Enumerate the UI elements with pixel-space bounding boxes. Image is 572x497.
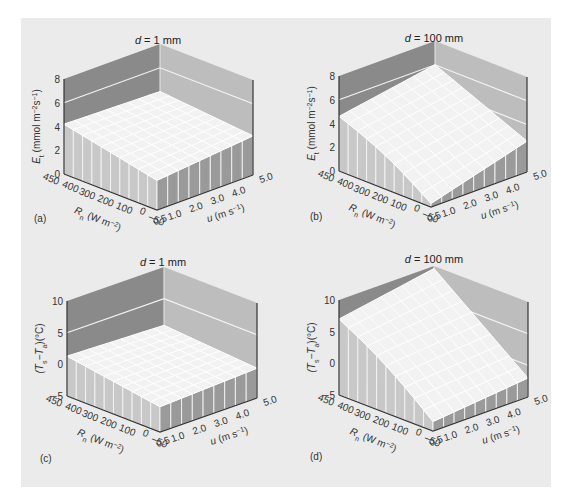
panel-b: 024684504003002001000−500.51.02.03.04.05… — [306, 32, 549, 232]
panel-title: d = 1 mm — [140, 256, 186, 268]
z-tick-label: 8 — [54, 74, 60, 85]
z-tick-label: 2 — [54, 145, 60, 156]
surface-skirt-left — [123, 386, 132, 421]
z-tick-label: 6 — [329, 95, 335, 106]
surface-skirt-left — [339, 116, 348, 174]
surface-skirt-left — [101, 147, 110, 192]
panel-label: (d) — [310, 451, 322, 462]
z-tick-label: 6 — [54, 98, 60, 109]
surface-skirt-left — [111, 152, 120, 195]
surface-skirt-left — [132, 392, 141, 425]
panel-label: (c) — [40, 453, 52, 464]
surface-skirt-right — [200, 156, 211, 195]
u-tick-label: 1.0 — [440, 204, 457, 219]
surface-skirt-left — [348, 328, 357, 402]
u-tick-label: 2.0 — [191, 422, 208, 437]
u-tick-label: 3.0 — [209, 192, 226, 207]
surface-skirt-left — [95, 371, 104, 410]
u-tick-label: 4.0 — [505, 406, 522, 421]
surface-skirt-right — [157, 175, 168, 210]
z-tick-label: 4 — [329, 119, 335, 130]
surface-skirt-left — [73, 130, 82, 182]
u-tick-label: 4.0 — [234, 407, 251, 422]
R-tick-label: 100 — [390, 421, 410, 438]
surface-skirt-right — [192, 390, 203, 421]
surface-skirt-right — [221, 146, 232, 187]
panel-label: (b) — [310, 211, 322, 222]
u-tick-label: 2.0 — [462, 196, 479, 211]
z-tick-label: 0 — [57, 359, 63, 370]
surface-skirt-left — [138, 169, 147, 206]
R-tick-label: 200 — [99, 415, 119, 432]
surface-skirt-right — [214, 381, 225, 413]
surface-skirt-right — [225, 377, 236, 410]
z-tick-label: 5 — [329, 327, 335, 338]
R-tick-label: 200 — [371, 190, 391, 207]
surface-skirt-right — [178, 166, 189, 203]
surface-skirt-right — [246, 368, 257, 402]
panel-title: d = 1 mm — [135, 34, 181, 46]
u-tick-label: 4.0 — [230, 184, 247, 199]
R-tick-label: 100 — [115, 200, 135, 217]
panel-title: d = 100 mm — [405, 253, 463, 265]
panel-d: −505104504003002001000−500.51.02.03.04.0… — [306, 253, 550, 462]
surface-skirt-right — [160, 402, 171, 432]
surface-skirt-left — [367, 346, 376, 409]
surface-skirt-right — [235, 373, 246, 406]
surface-skirt-right — [171, 398, 182, 428]
surface-skirt-left — [104, 376, 113, 414]
R-tick-label: 0 — [412, 202, 422, 214]
u-tick-label: 5.0 — [533, 392, 550, 407]
u-tick-label: 5.0 — [532, 167, 549, 182]
u-tick-label: 1.0 — [442, 428, 459, 443]
z-tick-label: 5 — [57, 328, 63, 339]
surface-skirt-right — [189, 161, 200, 199]
u-tick-label: 5.0 — [258, 170, 275, 185]
R-tick-label: 300 — [352, 182, 372, 199]
surface-skirt-left — [76, 361, 85, 403]
surface-skirt-right — [168, 170, 179, 206]
u-tick-label: 1.0 — [169, 429, 186, 444]
u-tick-label: 5.0 — [262, 393, 279, 408]
R-tick-label: 400 — [336, 399, 356, 416]
surface-skirt-left — [348, 124, 357, 179]
surface-skirt-right — [242, 136, 253, 179]
R-tick-label: 100 — [118, 422, 138, 439]
z-axis-label: (Ts−Ta)(°C) — [34, 323, 48, 373]
panel-label: (a) — [34, 213, 46, 224]
R-tick-label: 0 — [414, 426, 424, 438]
panel-a: 024684504003002001000−500.51.02.03.04.05… — [31, 34, 275, 235]
u-tick-label: 3.0 — [484, 413, 501, 428]
figure: 024684504003002001000−500.51.02.03.04.05… — [0, 0, 572, 497]
z-axis-label: Et (mmol m−2s−1) — [31, 89, 45, 164]
u-tick-label: 3.0 — [483, 189, 500, 204]
R-tick-label: 100 — [389, 197, 409, 214]
u-tick-label: 2.0 — [188, 199, 205, 214]
R-tick-label: 200 — [96, 193, 116, 210]
panel-title: d = 100 mm — [405, 32, 463, 44]
R-tick-label: 300 — [80, 407, 100, 424]
surface-skirt-left — [83, 135, 92, 184]
z-tick-label: 4 — [54, 122, 60, 133]
surface-skirt-left — [339, 319, 348, 399]
R-tick-label: 200 — [372, 414, 392, 431]
u-tick-label: 2.0 — [463, 421, 480, 436]
z-tick-label: 10 — [324, 295, 336, 306]
surface-skirt-left — [120, 158, 129, 199]
surface-skirt-left — [67, 356, 76, 400]
R-tick-label: 0 — [141, 427, 151, 439]
z-tick-label: 0 — [329, 358, 335, 369]
u-tick-label: 4.0 — [504, 181, 521, 196]
panel-c: −505104504003002001000−500.51.02.03.04.0… — [34, 256, 279, 464]
z-tick-label: 8 — [329, 71, 335, 82]
R-tick-label: 0 — [138, 205, 148, 217]
surface-skirt-left — [114, 381, 123, 417]
R-tick-label: 300 — [353, 406, 373, 423]
R-tick-label: 300 — [77, 185, 97, 202]
surface-skirt-right — [232, 141, 243, 183]
surface-skirt-left — [92, 141, 101, 188]
z-tick-label: 2 — [329, 142, 335, 153]
u-tick-label: 3.0 — [212, 414, 229, 429]
u-tick-label: 1.0 — [166, 207, 183, 222]
surface-skirt-right — [203, 385, 214, 417]
